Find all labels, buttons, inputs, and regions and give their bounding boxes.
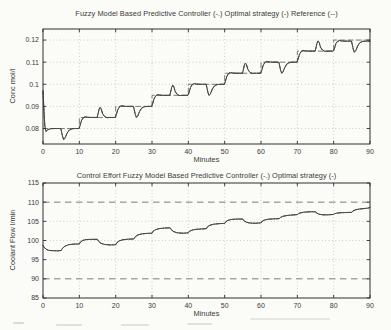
series-fuzzy-model-based-predictive-controller	[43, 207, 370, 251]
y-tick-label: 95	[31, 256, 39, 263]
x-tick-label: 50	[221, 148, 229, 155]
series-optimal-strategy	[43, 41, 370, 140]
x-tick-label: 20	[112, 148, 120, 155]
cropped-caption-remnant	[121, 324, 149, 326]
y-tick-label: 110	[28, 199, 39, 206]
y-tick-label: 0.11	[26, 59, 39, 66]
y-tick-label: 85	[31, 294, 39, 301]
y-tick-label: 115	[28, 179, 39, 186]
cropped-caption-remnant	[187, 323, 212, 325]
x-tick-label: 20	[112, 302, 120, 309]
x-tick-label: 70	[293, 148, 301, 155]
y-tick-label: 0.1	[29, 81, 39, 88]
y-tick-label: 100	[27, 237, 39, 244]
plot-area: 01020304050607080900.080.090.10.110.1201…	[0, 0, 391, 330]
y-tick-label: 105	[27, 218, 39, 225]
series-optimal-strategy	[43, 207, 370, 251]
x-tick-label: 60	[257, 148, 265, 155]
x-tick-label: 70	[293, 302, 301, 309]
cropped-caption-remnant	[56, 324, 82, 326]
x-tick-label: 40	[184, 302, 192, 309]
y-tick-label: 0.08	[25, 125, 39, 132]
y-tick-label: 0.09	[25, 103, 39, 110]
x-tick-label: 80	[330, 148, 338, 155]
x-tick-label: 50	[221, 302, 229, 309]
cropped-caption-remnant	[13, 322, 24, 324]
x-tick-label: 80	[330, 302, 338, 309]
y-tick-label: 0.12	[25, 36, 39, 43]
x-tick-label: 90	[366, 302, 374, 309]
x-tick-label: 30	[148, 148, 156, 155]
series-fuzzy-model-based-predictive-controller	[43, 41, 370, 140]
x-tick-label: 0	[41, 148, 45, 155]
x-tick-label: 0	[41, 302, 45, 309]
x-tick-label: 60	[257, 302, 265, 309]
x-tick-label: 40	[184, 148, 192, 155]
x-tick-label: 10	[75, 302, 83, 309]
x-tick-label: 10	[75, 148, 83, 155]
matlab-figure: Fuzzy Model Based Predictive Controller …	[0, 0, 391, 330]
x-tick-label: 30	[148, 302, 156, 309]
cropped-caption-remnant	[250, 318, 330, 320]
y-tick-label: 90	[31, 275, 39, 282]
x-tick-label: 90	[366, 148, 374, 155]
